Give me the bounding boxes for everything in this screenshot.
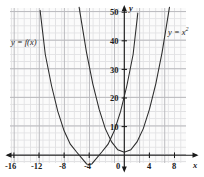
- y-tick-label-40: 40: [110, 37, 119, 46]
- x-axis: [6, 152, 199, 158]
- x-tick-label-8: 8: [172, 162, 176, 171]
- y-tick-label-50: 50: [110, 8, 119, 17]
- curve-label-f-of-x: y = f(x): [11, 38, 37, 47]
- curve-y-equals-f-of-x: [40, 10, 138, 164]
- curve-label-f-of-x-rhs: ): [34, 37, 37, 47]
- x-tick-label-neg4: -4: [84, 162, 91, 171]
- y-tick-label-10: 10: [110, 123, 119, 132]
- y-tick-label-30: 30: [110, 66, 119, 75]
- x-tick-label-neg16: -16: [5, 162, 16, 171]
- x-tick-label-neg12: -12: [31, 162, 42, 171]
- curve-label-f-of-x-lhs: y = f(: [11, 37, 30, 47]
- y-axis-label: y: [129, 4, 133, 13]
- curve-label-x-squared-exponent: 2: [186, 26, 189, 32]
- x-tick-label-4: 4: [147, 162, 151, 171]
- x-tick-label-0: 0: [116, 162, 120, 171]
- graph-figure: -16 -12 -8 -4 0 4 8 10 20 30 40 50 x y y…: [0, 0, 204, 177]
- x-tick-label-neg8: -8: [59, 162, 66, 171]
- y-tick-label-20: 20: [110, 94, 119, 103]
- x-axis-label: x: [193, 161, 197, 170]
- curve-label-x-squared: y = x2: [168, 26, 189, 36]
- curve-label-x-squared-lhs: y =: [168, 27, 182, 37]
